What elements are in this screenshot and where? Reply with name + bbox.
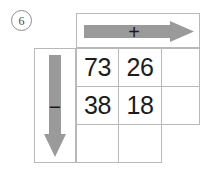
problem-number-badge: 6 <box>11 10 32 31</box>
grid-cell-r0c0[interactable]: 73 <box>76 48 119 87</box>
grid-cell-r2c2[interactable] <box>162 125 200 163</box>
grid-cell-r1c0[interactable]: 38 <box>76 87 119 125</box>
table-row: 73 26 <box>76 48 200 87</box>
grid-cell-r2c0[interactable] <box>76 125 119 163</box>
row-operation-header: − <box>34 48 76 163</box>
minus-operator: − <box>44 96 66 116</box>
arrow-right-icon: + <box>84 21 194 42</box>
grid-cell-r1c2[interactable] <box>162 87 200 125</box>
grid-cell-r0c2[interactable] <box>162 48 200 87</box>
grid-cell-r2c1[interactable] <box>119 125 162 163</box>
arrow-down-icon: − <box>44 55 66 157</box>
table-row <box>76 125 200 163</box>
number-grid: 73 26 38 18 <box>76 48 200 163</box>
table-row: 38 18 <box>76 87 200 125</box>
column-operation-header: + <box>76 13 200 48</box>
worksheet-problem: 6 + − 73 26 38 18 <box>0 0 209 170</box>
plus-operator: + <box>122 21 146 42</box>
grid-cell-r0c1[interactable]: 26 <box>119 48 162 87</box>
grid-cell-r1c1[interactable]: 18 <box>119 87 162 125</box>
